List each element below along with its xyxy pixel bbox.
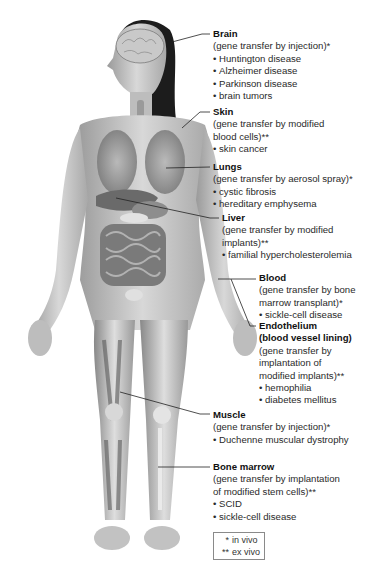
right-hand [28,320,52,356]
lungs-method: (gene transfer by aerosol spray)* [213,173,353,185]
bladder [125,289,143,301]
list-item: brain tumors [213,90,330,102]
label-lungs: Lungs (gene transfer by aerosol spray)* … [213,161,353,211]
muscle-title: Muscle [213,409,349,421]
left-hand [233,320,257,356]
label-muscle: Muscle (gene transfer by injection)* Duc… [213,409,349,446]
endothelium-title-line: Endothelium [259,320,352,332]
brain-title: Brain [213,28,330,40]
brain-method: (gene transfer by injection)* [213,40,330,52]
label-endothelium: Endothelium (blood vessel lining) (gene … [259,320,352,407]
skin-method-line: blood cells)** [213,131,324,143]
liver-disease-list: familial hypercholesterolemia [222,249,352,261]
gene-therapy-diagram: Brain (gene transfer by injection)* Hunt… [0,0,377,576]
label-brain: Brain (gene transfer by injection)* Hunt… [213,28,330,102]
list-item: Parkinson disease [213,78,330,90]
brain-disease-list: Huntington disease Alzheimer disease Par… [213,53,330,103]
list-item: sickle-cell disease [213,511,340,523]
list-item: skin cancer [213,143,324,155]
legend-symbol: * [217,534,229,546]
lungs-disease-list: cystic fibrosis hereditary emphysema [213,186,353,211]
bone-marrow-method-line: of modified stem cells)** [213,486,340,498]
label-skin: Skin (gene transfer by modified blood ce… [213,106,324,156]
label-blood: Blood (gene transfer by bone marrow tran… [259,272,356,322]
right-foot [94,526,130,550]
bone-marrow-disease-list: SCID sickle-cell disease [213,498,340,523]
endothelium-method-line: (gene transfer by [259,345,352,357]
muscle-disease-list: Duchenne muscular dystrophy [213,434,349,446]
skin-method-line: (gene transfer by modified [213,118,324,130]
bone-marrow-method-line: (gene transfer by implantation [213,473,340,485]
legend-text: in vivo [232,535,258,545]
bone-marrow-title: Bone marrow [213,461,340,473]
skin-disease-list: skin cancer [213,143,324,155]
brain-leader [172,34,210,42]
right-lung [145,130,185,194]
legend-text: ex vivo [232,547,260,557]
liver-method-line: implants)** [222,237,352,249]
label-bone-marrow: Bone marrow (gene transfer by implantati… [213,461,340,523]
torso [76,115,209,330]
list-item: Duchenne muscular dystrophy [213,434,349,446]
label-liver: Liver (gene transfer by modified implant… [222,212,352,262]
blood-method-line: (gene transfer by bone [259,284,356,296]
brain-organ [116,29,164,63]
lungs-title: Lungs [213,161,353,173]
list-item: SCID [213,498,340,510]
legend-box: *in vivo **ex vivo [213,532,265,560]
muscle-method: (gene transfer by injection)* [213,421,349,433]
list-item: hemophilia [259,382,352,394]
list-item: Huntington disease [213,53,330,65]
liver-title: Liver [222,212,352,224]
skin-title: Skin [213,106,324,118]
list-item: Alzheimer disease [213,65,330,77]
legend-row-in-vivo: *in vivo [217,534,261,546]
list-item: hereditary emphysema [213,198,353,210]
list-item: cystic fibrosis [213,186,353,198]
right-knee [105,403,123,421]
endothelium-title-line: (blood vessel lining) [259,332,352,344]
list-item: familial hypercholesterolemia [222,249,352,261]
blood-title: Blood [259,272,356,284]
endothelium-method-line: modified implants)** [259,370,352,382]
left-foot [144,526,180,550]
list-item: diabetes mellitus [259,394,352,406]
legend-symbol: ** [217,546,229,558]
left-lung [97,130,137,194]
blood-method-line: marrow transplant)* [259,297,356,309]
legend-row-ex-vivo: **ex vivo [217,546,261,558]
endothelium-disease-list: hemophilia diabetes mellitus [259,382,352,407]
left-knee [153,406,171,424]
liver-method-line: (gene transfer by modified [222,224,352,236]
right-arm [30,128,88,335]
endothelium-method-line: implantation of [259,357,352,369]
